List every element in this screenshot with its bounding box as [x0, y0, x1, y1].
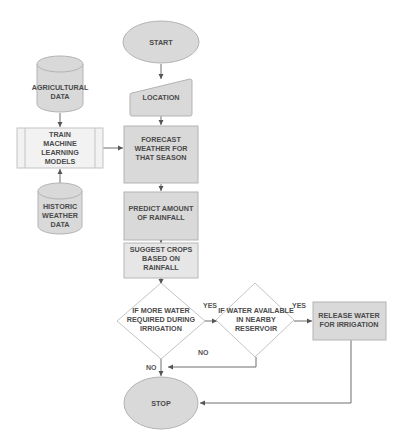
- node-suggest: SUGGEST CROPS BASED ON RAINFALL: [124, 243, 198, 278]
- train-line-2: MACHINE: [43, 139, 77, 148]
- node-decision-more-water: IF MORE WATER REQUIRED DURING IRRIGATION: [117, 283, 205, 359]
- historic-cylinder-top: [38, 183, 82, 199]
- train-line-1: TRAIN: [49, 130, 71, 139]
- decision1-line-1: IF MORE WATER: [132, 306, 190, 315]
- node-agricultural-data: AGRICULTURAL DATA: [32, 56, 89, 112]
- decision1-line-2: REQUIRED DURING: [127, 315, 196, 324]
- location-label: LOCATION: [143, 93, 180, 102]
- edge-release-stop: [200, 340, 351, 403]
- decision1-line-3: IRRIGATION: [140, 324, 182, 333]
- train-line-4: MODELS: [45, 157, 76, 166]
- edge-decision2-no: [168, 357, 256, 367]
- node-forecast: FORECAST WEATHER FOR THAT SEASON: [124, 126, 198, 183]
- node-start: START: [123, 21, 199, 63]
- flowchart-canvas: START LOCATION FORECAST WEATHER FOR THAT…: [0, 0, 401, 444]
- forecast-line-1: FORECAST: [141, 135, 181, 144]
- node-predict: PREDICT AMOUNT OF RAINFALL: [124, 192, 198, 240]
- edge-label-yes-1: YES: [203, 302, 217, 309]
- release-line-1: RELEASE WATER: [318, 311, 380, 320]
- predict-line-1: PREDICT AMOUNT: [129, 204, 194, 213]
- decision2-line-2: IN NEARBY: [236, 315, 276, 324]
- historic-line-1: HISTORIC: [43, 202, 77, 211]
- forecast-line-3: THAT SEASON: [136, 153, 187, 162]
- node-historic-data: HISTORIC WEATHER DATA: [38, 183, 82, 234]
- agri-line-1: AGRICULTURAL: [32, 83, 89, 92]
- historic-line-2: WEATHER: [42, 211, 79, 220]
- node-train-models: TRAIN MACHINE LEARNING MODELS: [17, 128, 103, 168]
- edge-label-yes-2: YES: [292, 302, 306, 309]
- edge-label-no-1: NO: [198, 349, 209, 356]
- node-stop: STOP: [124, 377, 198, 429]
- suggest-line-1: SUGGEST CROPS: [130, 245, 193, 254]
- suggest-line-2: BASED ON: [142, 254, 180, 263]
- forecast-line-2: WEATHER FOR: [135, 144, 189, 153]
- train-line-3: LEARNING: [41, 148, 79, 157]
- suggest-line-3: RAINFALL: [143, 263, 179, 272]
- agri-line-2: DATA: [51, 92, 70, 101]
- node-location: LOCATION: [130, 79, 192, 116]
- stop-label: STOP: [151, 399, 171, 408]
- decision2-line-1: IF WATER AVAILABLE: [218, 306, 294, 315]
- agri-cylinder-top: [37, 56, 83, 72]
- release-line-2: FOR IRRIGATION: [320, 320, 379, 329]
- node-decision-reservoir: IF WATER AVAILABLE IN NEARBY RESERVOIR: [216, 283, 294, 357]
- start-label: START: [149, 38, 173, 47]
- predict-line-2: OF RAINFALL: [137, 213, 185, 222]
- decision2-line-3: RESERVOIR: [235, 324, 278, 333]
- node-release: RELEASE WATER FOR IRRIGATION: [313, 302, 386, 340]
- edge-label-no-2: NO: [146, 364, 157, 371]
- historic-line-3: DATA: [51, 220, 70, 229]
